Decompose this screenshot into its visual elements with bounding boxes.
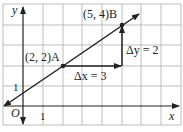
y-axis-label: y — [11, 3, 18, 17]
y-tick-label: 1 — [13, 81, 19, 93]
point-a-label: (2, 2)A — [25, 50, 60, 64]
line-ab — [63, 14, 139, 66]
delta-x-label: Δx = 3 — [74, 69, 106, 83]
point-a — [61, 64, 66, 69]
coordinate-diagram: y x O 1 1 (2, 2)A (5, 4)B Δx = 3 Δy = 2 — [0, 0, 183, 132]
x-axis-label: x — [168, 109, 175, 123]
grid — [3, 4, 181, 125]
x-tick-label: 1 — [40, 110, 46, 122]
point-b — [120, 23, 125, 28]
delta-y-label: Δy = 2 — [126, 43, 158, 57]
origin-label: O — [11, 106, 20, 120]
point-b-label: (5, 4)B — [83, 7, 117, 21]
